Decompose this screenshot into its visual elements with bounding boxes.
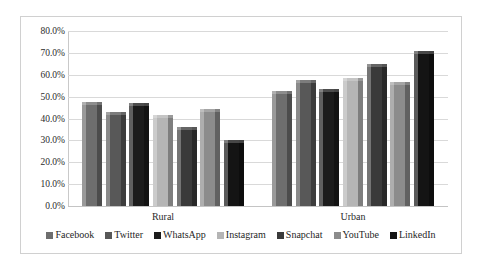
bar-bevel-hl xyxy=(224,140,228,206)
bar-bevel-cap xyxy=(414,51,434,54)
bar-bevel-hl xyxy=(296,80,300,206)
bar-bevel-cap xyxy=(224,140,244,143)
bar-bevel-sh xyxy=(405,82,410,206)
bar-rect xyxy=(319,89,339,206)
bar-bevel-sh xyxy=(121,112,126,206)
bar-bevel-hl xyxy=(129,103,133,206)
legend-swatch-icon xyxy=(390,232,397,239)
bar-rect xyxy=(200,109,220,206)
legend-swatch-icon xyxy=(334,232,341,239)
bar-bevel-cap xyxy=(82,102,102,105)
bar-rect xyxy=(414,51,434,206)
legend-swatch-icon xyxy=(105,232,112,239)
legend-item-whatsapp[interactable]: WhatsApp xyxy=(154,230,206,240)
bar-bevel-sh xyxy=(287,91,292,206)
bar-bevel-hl xyxy=(343,78,347,206)
y-axis-tick-label: 80.0% xyxy=(21,26,65,36)
bar-bevel-sh xyxy=(97,102,102,206)
bar-rect xyxy=(82,102,102,206)
bar-bevel-hl xyxy=(390,82,394,206)
bar-rect xyxy=(367,64,387,206)
legend-label: Instagram xyxy=(226,230,266,240)
y-axis-tick-label: 70.0% xyxy=(21,48,65,58)
bar-rect xyxy=(106,112,126,206)
legend-swatch-icon xyxy=(46,232,53,239)
bar-group-urban xyxy=(258,31,448,206)
bar-rect xyxy=(153,115,173,206)
legend-label: Twitter xyxy=(114,230,143,240)
y-axis-tick-label: 60.0% xyxy=(21,70,65,80)
bar-rect xyxy=(129,103,149,206)
bar-bevel-sh xyxy=(429,51,434,206)
bar-bevel-hl xyxy=(272,91,276,206)
bar-bevel-hl xyxy=(414,51,418,206)
bar-bevel-cap xyxy=(272,91,292,94)
y-axis-tick-label: 0.0% xyxy=(21,201,65,211)
bar-group-rural xyxy=(68,31,258,206)
bar-bevel-sh xyxy=(358,78,363,206)
bar-bevel-sh xyxy=(144,103,149,206)
legend-label: WhatsApp xyxy=(163,230,206,240)
y-axis-tick-label: 10.0% xyxy=(21,179,65,189)
x-axis-label-urban: Urban xyxy=(258,211,448,222)
bar-bevel-hl xyxy=(106,112,110,206)
bar-rect xyxy=(272,91,292,206)
bar-bevel-cap xyxy=(296,80,316,83)
chart-container: 80.0%70.0%60.0%50.0%40.0%30.0%20.0%10.0%… xyxy=(20,16,462,254)
x-axis-label-rural: Rural xyxy=(68,211,258,222)
legend-label: Facebook xyxy=(55,230,94,240)
gridline xyxy=(68,206,448,207)
bar-bevel-cap xyxy=(367,64,387,67)
bar-bevel-cap xyxy=(177,127,197,130)
chart-legend: FacebookTwitterWhatsAppInstagramSnapchat… xyxy=(21,230,461,240)
legend-item-twitter[interactable]: Twitter xyxy=(105,230,143,240)
bar-rect xyxy=(343,78,363,206)
bar-bevel-sh xyxy=(168,115,173,206)
legend-label: YouTube xyxy=(343,230,379,240)
bar-bevel-sh xyxy=(311,80,316,206)
legend-item-youtube[interactable]: YouTube xyxy=(334,230,379,240)
bar-bevel-hl xyxy=(82,102,86,206)
bar-bevel-cap xyxy=(153,115,173,118)
legend-item-facebook[interactable]: Facebook xyxy=(46,230,94,240)
bar-bevel-sh xyxy=(192,127,197,206)
legend-item-instagram[interactable]: Instagram xyxy=(217,230,266,240)
y-axis-tick-label: 30.0% xyxy=(21,135,65,145)
y-axis-tick-label: 20.0% xyxy=(21,157,65,167)
bar-bevel-sh xyxy=(215,109,220,206)
bar-bevel-cap xyxy=(106,112,126,115)
bar-rect xyxy=(177,127,197,206)
legend-item-snapchat[interactable]: Snapchat xyxy=(277,230,323,240)
legend-label: Snapchat xyxy=(286,230,323,240)
legend-swatch-icon xyxy=(277,232,284,239)
bar-bevel-cap xyxy=(200,109,220,112)
legend-label: LinkedIn xyxy=(399,230,436,240)
y-axis-tick-label: 50.0% xyxy=(21,92,65,102)
bar-bevel-hl xyxy=(200,109,204,206)
legend-swatch-icon xyxy=(154,232,161,239)
legend-item-linkedin[interactable]: LinkedIn xyxy=(390,230,436,240)
bar-bevel-hl xyxy=(153,115,157,206)
bar-bevel-sh xyxy=(334,89,339,206)
bar-bevel-sh xyxy=(382,64,387,206)
bar-bevel-hl xyxy=(319,89,323,206)
bar-rect xyxy=(296,80,316,206)
y-axis: 80.0%70.0%60.0%50.0%40.0%30.0%20.0%10.0%… xyxy=(21,31,65,206)
y-axis-tick-label: 40.0% xyxy=(21,114,65,124)
bar-bevel-cap xyxy=(390,82,410,85)
bar-bevel-cap xyxy=(343,78,363,81)
bar-bevel-hl xyxy=(177,127,181,206)
bar-bevel-hl xyxy=(367,64,371,206)
bar-bevel-cap xyxy=(319,89,339,92)
bar-rect xyxy=(390,82,410,206)
bar-rect xyxy=(224,140,244,206)
legend-swatch-icon xyxy=(217,232,224,239)
bar-bevel-cap xyxy=(129,103,149,106)
plot-area xyxy=(68,31,448,206)
bar-bevel-sh xyxy=(239,140,244,206)
